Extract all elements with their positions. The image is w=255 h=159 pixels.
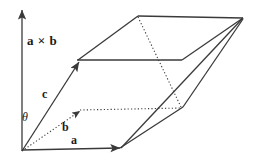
front-right-edge <box>121 18 243 148</box>
label-vector-a: a <box>71 134 77 146</box>
label-a-cross-b: a × b <box>27 34 57 47</box>
label-vector-b: b <box>62 121 69 133</box>
vector-a <box>22 148 120 150</box>
vector-diagram-figure: a × b c θ b a <box>0 0 255 159</box>
diagram-canvas <box>0 0 255 159</box>
label-angle-theta: θ <box>22 111 28 123</box>
top-left-back-edge <box>78 16 138 60</box>
hidden-base-edge <box>80 108 182 110</box>
label-vector-c: c <box>42 88 47 100</box>
base-right-edge <box>120 107 183 148</box>
top-right-edge <box>182 18 243 60</box>
hidden-vertical-edge <box>138 17 181 107</box>
side-edge-c <box>183 19 243 107</box>
top-back-edge <box>138 16 243 18</box>
